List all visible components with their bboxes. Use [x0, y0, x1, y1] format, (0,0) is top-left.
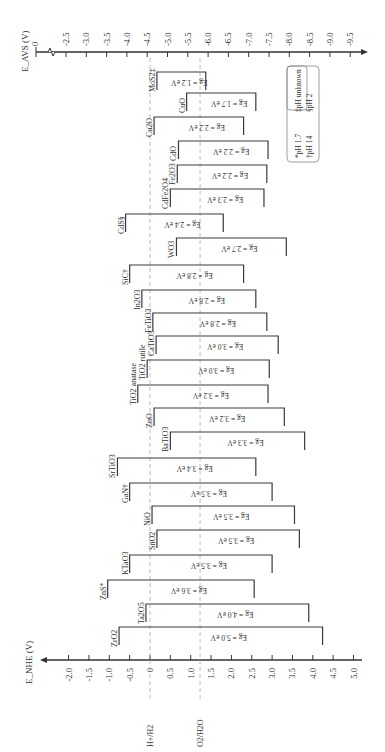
avs-tick-label: -2.5 — [61, 33, 71, 46]
material-label: SiC† — [121, 269, 130, 285]
nhe-tick-label: -2.0 — [64, 668, 74, 681]
nhe-axis-arrow-icon — [40, 657, 47, 663]
nhe-tick-label: 5.0 — [349, 668, 359, 679]
material-label: BaTiO3 — [161, 427, 170, 453]
nhe-tick-label: -1.5 — [84, 668, 94, 681]
bandgap-label: Eg = 3.5 eV — [190, 561, 227, 570]
bandgap-label: Eg = 3.2 eV — [208, 414, 245, 423]
legend-item: *pH 1.7 — [294, 134, 303, 158]
nhe-tick-label: 3.0 — [267, 668, 277, 679]
material-label: FeTiO3 — [144, 308, 153, 333]
bandgap-label: Eg = 3.3 eV — [227, 438, 264, 447]
legend-box — [287, 66, 319, 162]
bandgap-label: Eg = 2.4 eV — [164, 220, 201, 229]
material-label: NiO — [143, 512, 152, 526]
band-diagram: -2.0-1.5-1.0-0.500.51.01.52.02.53.03.54.… — [0, 0, 385, 752]
bandgap-label: Eg = 5.0 eV — [210, 633, 247, 642]
bandgap-label: Eg = 3.0 eV — [197, 366, 234, 375]
bandgap-label: Eg = 2.3 eV — [206, 195, 243, 204]
material-label: Cu2O — [145, 118, 154, 137]
bandgap-label: Eg = 2.8 eV — [188, 296, 225, 305]
bandgap-label: Eg = 2.8 eV — [176, 271, 213, 280]
bandgap-label: Eg = 3.5 eV — [190, 489, 227, 498]
nhe-tick-label: 4.5 — [328, 668, 338, 679]
material-label: In2O3 — [133, 290, 142, 310]
nhe-axis-title: E_NHE (V) — [24, 641, 34, 684]
material-label: SnO2 — [148, 532, 157, 550]
avs-tick-label: -4.0 — [122, 33, 132, 46]
bandgap-label: Eg = 3.5 eV — [217, 536, 254, 545]
avs-tick-label: -9.0 — [325, 33, 335, 46]
legend-item: ‡pH unknown — [294, 69, 303, 112]
material-label: Ta2O5 — [137, 602, 146, 624]
avs-axis-title: E_AVS (V) — [20, 30, 30, 72]
avs-tick-label: -8.5 — [305, 33, 315, 46]
nhe-tick-label: 4.0 — [308, 668, 318, 679]
avs-tick-label: -7.0 — [244, 33, 254, 46]
avs-tick-label: -8.0 — [284, 33, 294, 46]
bandgap-label: Eg = 2.2 eV — [188, 123, 225, 132]
material-label: ZrO2 — [110, 630, 119, 647]
avs-tick-label: -7.5 — [264, 33, 274, 46]
avs-tick-label: -6.5 — [223, 33, 233, 46]
nhe-tick-label: 3.5 — [287, 668, 297, 679]
avs-tick-label: -4.5 — [142, 33, 152, 46]
material-label: TiO2 rutile — [138, 344, 147, 380]
avs-tick-label: -5.5 — [183, 33, 193, 46]
bandgap-label: Eg = 3.0 eV — [206, 342, 243, 351]
material-label: CaTiO3 — [147, 331, 156, 357]
bandgap-label: Eg = 3.4 eV — [176, 464, 213, 473]
axis-break-icon — [48, 48, 55, 56]
nhe-tick-label: 1.0 — [186, 668, 196, 679]
material-label: ZnS* — [99, 583, 108, 600]
bandgap-label: Eg = 1.2 eV — [171, 78, 208, 87]
material-label: KTaO3 — [121, 552, 130, 575]
material-label: CdO — [169, 146, 178, 161]
bandgap-label: Eg = 4.0 eV — [217, 610, 254, 619]
material-label: CdS§ — [117, 216, 126, 234]
bandgap-label: Eg = 1.7 eV — [210, 99, 247, 108]
material-label: CuO — [178, 98, 187, 113]
material-label: ZnO — [145, 413, 154, 428]
material-label: GaN† — [121, 484, 130, 503]
bandgap-label: Eg = 3.2 eV — [192, 391, 229, 400]
material-label: WO3 — [167, 241, 176, 258]
nhe-tick-label: 1.5 — [206, 668, 216, 679]
bandgap-label: Eg = 3.5 eV — [213, 512, 250, 521]
material-label: SrTiO3 — [108, 454, 117, 478]
avs-axis-arrow-icon — [361, 49, 368, 55]
nhe-tick-label: -1.0 — [104, 668, 114, 681]
avs-tick-label: -9.5 — [345, 33, 355, 46]
material-label: MoS2‡ — [148, 68, 157, 92]
nhe-tick-label: -0.5 — [125, 668, 135, 681]
bandgap-label: Eg = 2.7 eV — [221, 244, 258, 253]
avs-tick-label: -5.0 — [163, 33, 173, 46]
bandgap-label: Eg = 2.2 eV — [211, 171, 248, 180]
reference-label: H+/H2 — [146, 725, 155, 747]
avs-tick-label: 0 — [30, 42, 40, 46]
material-label: TiO2 anatase — [129, 362, 138, 405]
bandgap-label: Eg = 3.6 eV — [170, 586, 207, 595]
legend-item: †pH 14 — [305, 135, 314, 158]
nhe-tick-label: 2.5 — [247, 668, 257, 679]
reference-label: O2/H2O — [196, 719, 205, 747]
nhe-tick-label: 2.0 — [226, 668, 236, 679]
avs-tick-label: -6.0 — [203, 33, 213, 46]
material-label: CdFe2O4 — [161, 178, 170, 209]
bandgap-label: Eg = 2.8 eV — [199, 319, 236, 328]
nhe-tick-label: 0.5 — [165, 668, 175, 679]
avs-tick-label: -3.5 — [102, 33, 112, 46]
avs-tick-label: -3.0 — [81, 33, 91, 46]
legend-item: §pH 2 — [305, 93, 314, 112]
bandgap-label: Eg = 2.2 eV — [213, 147, 250, 156]
